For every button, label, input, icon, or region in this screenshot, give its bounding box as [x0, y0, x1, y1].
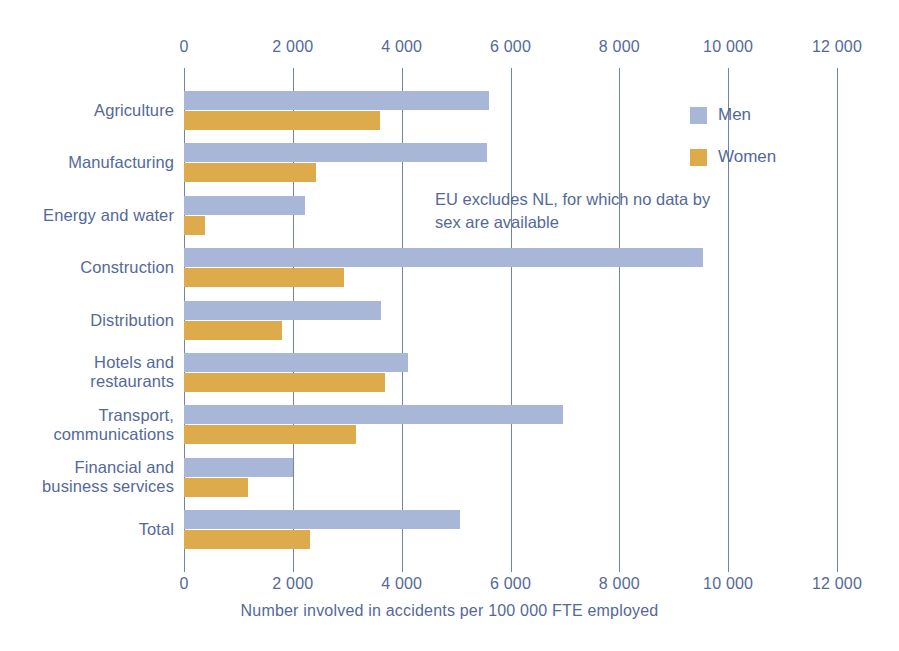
category-label-line: communications [2, 425, 174, 444]
bar-women [184, 425, 356, 444]
x-tick-mark-bottom [728, 556, 729, 572]
x-tick-label-bottom: 0 [179, 575, 188, 593]
category-label: Transport,communications [2, 406, 174, 444]
x-tick-mark-bottom [511, 556, 512, 572]
x-tick-mark-bottom [619, 556, 620, 572]
bar-women [184, 530, 310, 549]
x-tick-label-top: 6 000 [490, 38, 531, 56]
legend-item[interactable]: Men [690, 105, 776, 125]
x-tick-mark-bottom [293, 556, 294, 572]
x-tick-label-top: 2 000 [272, 38, 313, 56]
x-tick-mark-top [619, 68, 620, 84]
x-tick-label-top: 4 000 [381, 38, 422, 56]
category-label-line: Hotels and [2, 353, 174, 372]
bar-men [184, 458, 293, 477]
x-tick-label-bottom: 8 000 [599, 575, 640, 593]
gridline [837, 84, 838, 556]
x-axis-title: Number involved in accidents per 100 000… [0, 602, 899, 620]
bar-men [184, 196, 305, 215]
bar-women [184, 268, 344, 287]
category-label: Construction [2, 258, 174, 277]
category-label: Financial andbusiness services [2, 458, 174, 496]
category-label: Hotels andrestaurants [2, 353, 174, 391]
category-label-line: Financial and [2, 458, 174, 477]
annotation-note-line-1: EU excludes NL, for which no data by [435, 188, 745, 211]
category-label-line: Total [2, 520, 174, 539]
legend-swatch-icon [690, 107, 707, 124]
bar-men [184, 353, 408, 372]
category-label-line: Energy and water [2, 206, 174, 225]
category-label: Distribution [2, 311, 174, 330]
category-label-line: restaurants [2, 372, 174, 391]
bar-women [184, 111, 380, 130]
x-tick-mark-bottom [184, 556, 185, 572]
x-tick-label-top: 8 000 [599, 38, 640, 56]
bar-men [184, 301, 381, 320]
x-tick-mark-top [511, 68, 512, 84]
bar-men [184, 143, 487, 162]
category-label-line: Distribution [2, 311, 174, 330]
bar-women [184, 216, 205, 235]
x-tick-mark-top [184, 68, 185, 84]
x-tick-label-top: 10 000 [703, 38, 753, 56]
bar-men [184, 248, 703, 267]
legend-label: Men [718, 105, 751, 125]
category-label: Total [2, 520, 174, 539]
x-tick-label-top: 0 [179, 38, 188, 56]
legend-swatch-icon [690, 149, 707, 166]
gridline [619, 84, 620, 556]
x-tick-label-top: 12 000 [812, 38, 862, 56]
chart-legend: MenWomen [690, 105, 776, 189]
x-tick-mark-top [837, 68, 838, 84]
x-tick-label-bottom: 12 000 [812, 575, 862, 593]
category-label-line: business services [2, 477, 174, 496]
category-label: Manufacturing [2, 153, 174, 172]
x-tick-mark-top [728, 68, 729, 84]
x-tick-label-bottom: 6 000 [490, 575, 531, 593]
bar-women [184, 478, 248, 497]
gridline [511, 84, 512, 556]
x-tick-mark-top [402, 68, 403, 84]
annotation-note: EU excludes NL, for which no data by sex… [435, 188, 745, 234]
category-label-line: Manufacturing [2, 153, 174, 172]
x-tick-label-bottom: 2 000 [272, 575, 313, 593]
category-label: Agriculture [2, 101, 174, 120]
x-tick-mark-top [293, 68, 294, 84]
annotation-note-line-2: sex are available [435, 211, 745, 234]
bar-men [184, 91, 489, 110]
x-tick-label-bottom: 4 000 [381, 575, 422, 593]
category-label-line: Agriculture [2, 101, 174, 120]
x-tick-mark-bottom [837, 556, 838, 572]
category-label: Energy and water [2, 206, 174, 225]
x-tick-mark-bottom [402, 556, 403, 572]
legend-label: Women [718, 147, 776, 167]
chart-container: 02 0004 0006 0008 00010 00012 000 02 000… [0, 0, 899, 651]
x-tick-label-bottom: 10 000 [703, 575, 753, 593]
legend-item[interactable]: Women [690, 147, 776, 167]
bar-men [184, 405, 563, 424]
y-axis-category-labels: AgricultureManufacturingEnergy and water… [0, 84, 174, 556]
bar-women [184, 163, 316, 182]
category-label-line: Construction [2, 258, 174, 277]
bar-women [184, 321, 282, 340]
bar-men [184, 510, 460, 529]
bar-women [184, 373, 385, 392]
category-label-line: Transport, [2, 406, 174, 425]
